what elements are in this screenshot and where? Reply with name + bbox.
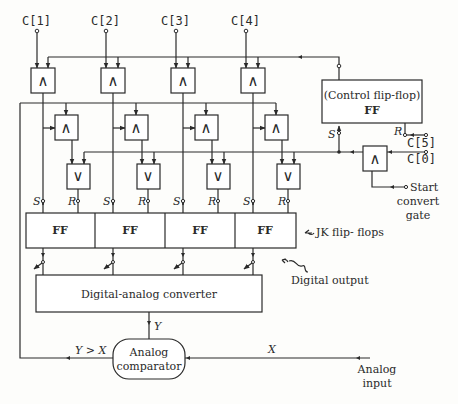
svg-text:∧: ∧	[131, 119, 142, 137]
control-flip-flop: (Control flip-flop) FF	[322, 80, 422, 123]
jk-ff-pin-labels: S R S R S R S R	[33, 195, 290, 208]
or-gate-3: ∨	[207, 164, 230, 189]
svg-text:R: R	[277, 195, 286, 208]
svg-text:∧: ∧	[201, 119, 212, 137]
comparator-input-x-label: X	[267, 343, 277, 356]
svg-text:∧: ∧	[108, 72, 119, 90]
adc-block-diagram: C[1] C[2] C[3] C[4] ∧ ∧ ∧ ∧	[0, 0, 458, 404]
c2-label: C[2]	[91, 14, 120, 28]
or-gate-2: ∨	[137, 164, 160, 189]
c5-label: C[5]	[407, 136, 436, 150]
and-gate-mid-1: ∧	[55, 115, 78, 140]
svg-text:∨: ∨	[73, 167, 84, 185]
c1-label: C[1]	[22, 14, 51, 28]
digital-output-label: Digital output	[291, 274, 369, 287]
and-gate-top-2: ∧	[101, 68, 125, 93]
digital-output-taps	[34, 248, 255, 275]
control-input-c2: C[2]	[91, 14, 120, 68]
svg-text:(Control flip-flop): (Control flip-flop)	[324, 89, 421, 102]
and-gate-top-3: ∧	[171, 68, 195, 93]
and-gate-mid-2: ∧	[125, 115, 148, 140]
jk-flipflop-row: FF FF FF FF	[26, 213, 296, 248]
digital-analog-converter: Digital-analog converter	[36, 275, 262, 312]
svg-text:R: R	[67, 195, 76, 208]
svg-text:FF: FF	[364, 104, 380, 117]
svg-text:Digital-analog converter: Digital-analog converter	[81, 288, 218, 301]
control-ff-set-label: S	[328, 128, 336, 141]
comparator-output-label: Y > X	[75, 344, 107, 357]
svg-text:∧: ∧	[248, 72, 259, 90]
svg-text:∧: ∧	[271, 119, 282, 137]
control-input-c3: C[3]	[161, 14, 190, 68]
svg-text:R: R	[207, 195, 216, 208]
and-gate-top-1: ∧	[31, 68, 55, 93]
svg-text:∧: ∧	[370, 150, 381, 168]
start-and-gate: ∧	[363, 146, 387, 171]
jk-ff-4: FF	[257, 224, 273, 237]
start-gate-label-3: gate	[406, 209, 431, 222]
analog-comparator: Analog comparator	[113, 339, 185, 379]
svg-text:∧: ∧	[38, 72, 49, 90]
control-ff-reset-label: R	[393, 125, 402, 138]
jk-flipflops-caption: JK flip- flops	[315, 226, 384, 239]
or-gate-1: ∨	[67, 164, 90, 189]
c3-label: C[3]	[161, 14, 190, 28]
svg-text:S: S	[173, 195, 181, 208]
svg-text:S: S	[33, 195, 41, 208]
and-gate-mid-4: ∧	[265, 115, 288, 140]
dac-output-y-label: Y	[154, 320, 163, 333]
svg-text:R: R	[137, 195, 146, 208]
svg-text:∨: ∨	[213, 167, 224, 185]
or-gate-4: ∨	[277, 164, 300, 189]
and-gate-mid-3: ∧	[195, 115, 218, 140]
control-input-c4: C[4]	[231, 14, 260, 68]
jk-ff-2: FF	[122, 224, 138, 237]
svg-text:∨: ∨	[283, 167, 294, 185]
start-gate-label-2: convert	[397, 195, 440, 208]
svg-text:Analog: Analog	[129, 346, 169, 359]
control-input-c1: C[1]	[22, 14, 51, 68]
svg-text:∧: ∧	[61, 119, 72, 137]
c4-label: C[4]	[231, 14, 260, 28]
jk-ff-3: FF	[192, 224, 208, 237]
start-gate-label-1: Start	[410, 181, 439, 194]
svg-text:S: S	[103, 195, 111, 208]
and-gate-top-4: ∧	[241, 68, 265, 93]
svg-text:∧: ∧	[178, 72, 189, 90]
analog-input-label-1: Analog	[357, 363, 397, 376]
svg-text:S: S	[243, 195, 251, 208]
svg-text:∨: ∨	[143, 167, 154, 185]
svg-text:comparator: comparator	[117, 360, 183, 373]
jk-ff-1: FF	[52, 224, 68, 237]
c0-label: C[0]	[407, 152, 436, 166]
analog-input-label-2: input	[362, 377, 392, 390]
